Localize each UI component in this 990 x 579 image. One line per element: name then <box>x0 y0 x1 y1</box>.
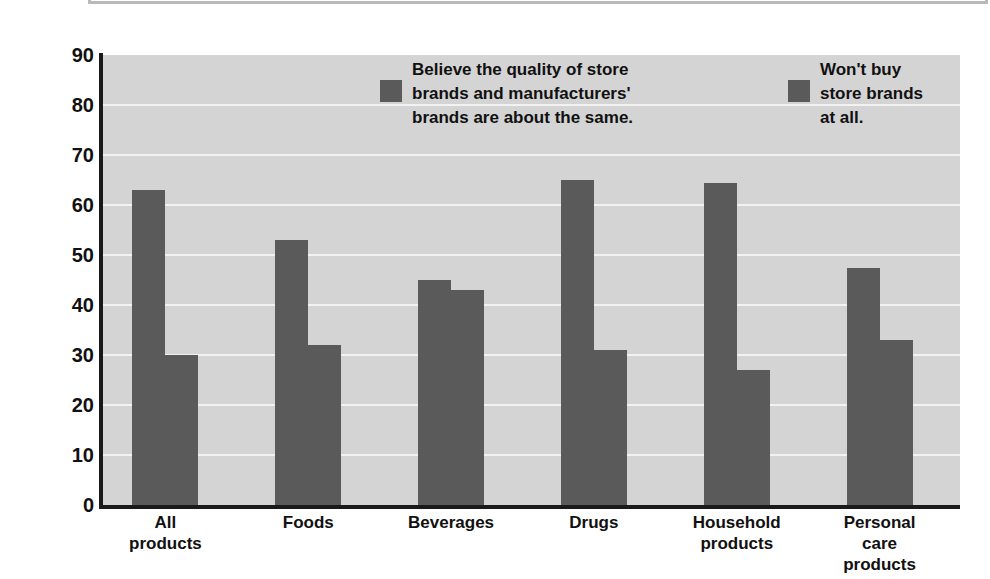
bar <box>594 350 627 505</box>
chart-legend: Believe the quality of store brands and … <box>380 58 960 163</box>
y-tick-label: 20 <box>72 395 94 415</box>
bar <box>308 345 341 505</box>
legend-label: Won't buy store brands at all. <box>820 58 923 130</box>
bar <box>704 183 737 506</box>
x-category-label: Beverages <box>391 512 511 533</box>
x-category-label: Allproducts <box>105 512 225 554</box>
bar-chart: Percentage responding 908070605040302010… <box>0 0 990 579</box>
bar <box>132 190 165 505</box>
y-tick-label: 70 <box>72 145 94 165</box>
y-tick-label: 90 <box>72 45 94 65</box>
y-tick-label: 10 <box>72 445 94 465</box>
x-category-label: Personalcareproducts <box>820 512 940 575</box>
x-category-label: Drugs <box>534 512 654 533</box>
bar <box>880 340 913 505</box>
bar <box>561 180 594 505</box>
y-tick-label: 60 <box>72 195 94 215</box>
y-tick-label: 0 <box>83 495 94 515</box>
bar <box>165 355 198 505</box>
legend-swatch-icon <box>788 80 810 102</box>
y-axis-tick-labels: 9080706050403020100 <box>38 55 94 505</box>
x-category-label: Foods <box>248 512 368 533</box>
bar <box>847 268 880 506</box>
legend-label: Believe the quality of store brands and … <box>412 58 633 130</box>
gridline <box>103 254 960 256</box>
bar <box>737 370 770 505</box>
y-tick-label: 30 <box>72 345 94 365</box>
gridline <box>103 454 960 456</box>
y-tick-label: 80 <box>72 95 94 115</box>
y-tick-label: 50 <box>72 245 94 265</box>
gridline <box>103 354 960 356</box>
x-category-label: Householdproducts <box>677 512 797 554</box>
gridline <box>103 404 960 406</box>
bar <box>275 240 308 505</box>
y-tick-label: 40 <box>72 295 94 315</box>
x-axis-line <box>99 505 960 509</box>
bar <box>418 280 451 505</box>
gridline <box>103 204 960 206</box>
bar <box>451 290 484 505</box>
x-axis-category-labels: AllproductsFoodsBeveragesDrugsHouseholdp… <box>103 512 960 578</box>
y-axis-line <box>99 53 103 509</box>
legend-swatch-icon <box>380 80 402 102</box>
gridline <box>103 304 960 306</box>
